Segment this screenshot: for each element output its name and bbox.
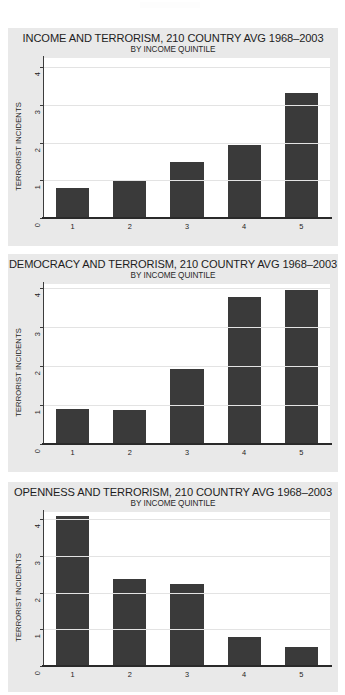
bar-group xyxy=(44,58,330,218)
y-axis-label-text: TERRORIST INCIDENTS xyxy=(14,328,23,417)
y-axis-label: TERRORIST INCIDENTS xyxy=(11,58,25,234)
x-tick-labels: 12345 xyxy=(44,667,330,682)
bar xyxy=(228,145,261,218)
x-tick-label: 1 xyxy=(44,445,101,460)
chart-panel-openness: OPENNESS AND TERRORISM, 210 COUNTRY AVG … xyxy=(8,482,338,692)
bar xyxy=(228,637,261,666)
y-tick-label: 2 xyxy=(33,371,42,375)
gridline xyxy=(44,366,330,367)
bar-slot xyxy=(44,58,101,218)
bar-slot xyxy=(216,58,273,218)
y-axis-label: TERRORIST INCIDENTS xyxy=(11,512,25,682)
y-axis-label-text: TERRORIST INCIDENTS xyxy=(14,102,23,191)
plot-axes xyxy=(44,284,330,444)
y-tick-label: 0 xyxy=(33,449,42,453)
chart-subtitle: BY INCOME QUINTILE xyxy=(8,45,338,54)
plot-wrapper: TERRORIST INCIDENTS 01234 12345 xyxy=(8,284,338,460)
y-tick-column: 01234 xyxy=(25,58,41,234)
x-tick-label: 5 xyxy=(273,667,330,682)
y-tick-column: 01234 xyxy=(25,512,41,682)
plot-wrapper: TERRORIST INCIDENTS 01234 12345 xyxy=(8,512,338,682)
plot-area xyxy=(44,58,330,218)
plot-wrapper: TERRORIST INCIDENTS 01234 12345 xyxy=(8,58,338,234)
chart-panel-income: INCOME AND TERRORISM, 210 COUNTRY AVG 19… xyxy=(8,28,338,246)
y-axis-label-text: TERRORIST INCIDENTS xyxy=(14,553,23,642)
gridline xyxy=(44,327,330,328)
bar xyxy=(285,647,318,666)
y-tick-label: 3 xyxy=(33,110,42,114)
gridline xyxy=(44,288,330,289)
y-tick-label: 1 xyxy=(33,185,42,189)
chart-panel-democracy: DEMOCRACY AND TERRORISM, 210 COUNTRY AVG… xyxy=(8,254,338,472)
gridline xyxy=(44,143,330,144)
plot-axes xyxy=(44,58,330,218)
bar-slot xyxy=(158,58,215,218)
bar xyxy=(285,93,318,218)
y-tick-label: 4 xyxy=(33,293,42,297)
y-tick-label: 4 xyxy=(33,524,42,528)
bar-slot xyxy=(101,284,158,444)
y-tick-label: 0 xyxy=(33,223,42,227)
x-tick-label: 4 xyxy=(216,445,273,460)
figure-page: INCOME AND TERRORISM, 210 COUNTRY AVG 19… xyxy=(0,0,345,695)
y-axis-line xyxy=(43,56,44,218)
x-tick-label: 2 xyxy=(101,445,158,460)
scan-artifact xyxy=(140,2,200,8)
bar xyxy=(170,584,203,667)
chart-subtitle: BY INCOME QUINTILE xyxy=(8,271,338,280)
x-tick-label: 4 xyxy=(216,219,273,234)
bar xyxy=(56,409,89,444)
y-tick-label: 1 xyxy=(33,410,42,414)
chart-title: DEMOCRACY AND TERRORISM, 210 COUNTRY AVG… xyxy=(8,254,338,270)
gridline xyxy=(44,519,330,520)
x-tick-label: 5 xyxy=(273,219,330,234)
bar-slot xyxy=(158,512,215,666)
bar-slot xyxy=(216,512,273,666)
bar xyxy=(170,369,203,444)
x-tick-label: 1 xyxy=(44,667,101,682)
bar-group xyxy=(44,284,330,444)
bar-slot xyxy=(216,284,273,444)
gridline xyxy=(44,405,330,406)
bar xyxy=(228,297,261,445)
x-tick-label: 5 xyxy=(273,445,330,460)
y-tick-column: 01234 xyxy=(25,284,41,460)
bar-slot xyxy=(44,512,101,666)
y-tick-label: 0 xyxy=(33,671,42,675)
y-tick-label: 2 xyxy=(33,598,42,602)
bar-slot xyxy=(158,284,215,444)
x-tick-label: 2 xyxy=(101,667,158,682)
bar xyxy=(113,410,146,444)
plot-area xyxy=(44,512,330,666)
y-tick-label: 4 xyxy=(33,72,42,76)
gridline xyxy=(44,180,330,181)
y-tick-label: 3 xyxy=(33,561,42,565)
bar-slot xyxy=(273,284,330,444)
gridline xyxy=(44,556,330,557)
x-tick-labels: 12345 xyxy=(44,445,330,460)
x-tick-label: 3 xyxy=(158,219,215,234)
y-axis-line xyxy=(43,282,44,444)
x-tick-label: 4 xyxy=(216,667,273,682)
gridline xyxy=(44,629,330,630)
y-axis-label: TERRORIST INCIDENTS xyxy=(11,284,25,460)
gridline xyxy=(44,593,330,594)
gridline xyxy=(44,67,330,68)
bar-slot xyxy=(44,284,101,444)
x-tick-labels: 12345 xyxy=(44,219,330,234)
x-tick-label: 3 xyxy=(158,445,215,460)
y-tick-label: 3 xyxy=(33,332,42,336)
x-tick-label: 3 xyxy=(158,667,215,682)
bar xyxy=(56,188,89,218)
plot-area xyxy=(44,284,330,444)
plot-axes xyxy=(44,512,330,666)
bar-slot xyxy=(101,512,158,666)
bar xyxy=(170,162,203,218)
bar-slot xyxy=(273,58,330,218)
chart-title: OPENNESS AND TERRORISM, 210 COUNTRY AVG … xyxy=(8,482,338,498)
x-tick-label: 2 xyxy=(101,219,158,234)
bar-slot xyxy=(273,512,330,666)
x-tick-label: 1 xyxy=(44,219,101,234)
gridline xyxy=(44,105,330,106)
y-tick-label: 1 xyxy=(33,634,42,638)
